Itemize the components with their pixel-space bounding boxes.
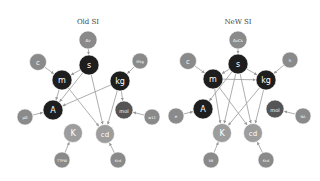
- node-m-new: m: [203, 69, 223, 89]
- node-c-old: c: [30, 54, 47, 71]
- node-cd-old: cd: [96, 125, 115, 144]
- svg-text:mol: mol: [119, 108, 128, 114]
- old-si-title: Old SI: [77, 18, 99, 26]
- node-dnu-old: Δν: [79, 31, 97, 49]
- svg-text:w12: w12: [148, 116, 155, 120]
- node-w12-old: w12: [144, 109, 160, 125]
- svg-text:c: c: [186, 58, 190, 66]
- node-c-new: c: [180, 53, 197, 70]
- edge-s-to-cd: [91, 75, 102, 125]
- node-K-new: K: [213, 124, 232, 143]
- edge-s-to-m: [222, 69, 229, 73]
- svg-text:K: K: [219, 129, 225, 138]
- node-m-old: m: [52, 70, 72, 90]
- edge-Kcd-to-cd: [109, 143, 114, 153]
- edge-NA-to-mol: [284, 111, 295, 114]
- edge-Ttpw-to-K: [65, 142, 69, 152]
- edge-c-to-m: [45, 67, 54, 74]
- edge-m-to-K: [215, 89, 221, 123]
- svg-text:c: c: [36, 59, 40, 67]
- node-NA-new: NA: [295, 108, 311, 124]
- edge-kg-to-A: [63, 85, 111, 106]
- node-cd-new: cd: [244, 124, 263, 143]
- edge-m-to-cd: [68, 88, 99, 126]
- node-kg-old: kg: [110, 71, 130, 91]
- node-kB-new: kB: [203, 152, 219, 168]
- edge-mu0-to-A: [33, 113, 43, 116]
- edge-s-to-K: [224, 74, 235, 124]
- edge-kB-to-K: [214, 142, 218, 152]
- node-mol-old: mol: [115, 101, 133, 119]
- node-Mkg-old: Mkg: [132, 53, 148, 69]
- edge-h-to-kg: [274, 65, 284, 73]
- node-Ttpw-old: TTPW: [54, 152, 70, 168]
- svg-text:m: m: [209, 75, 217, 84]
- svg-text:kg: kg: [115, 77, 125, 86]
- svg-text:NA: NA: [300, 115, 306, 119]
- node-s-new: s: [228, 54, 248, 74]
- svg-text:kg: kg: [261, 76, 271, 85]
- edge-Mkg-to-kg: [127, 67, 134, 74]
- svg-text:μ0: μ0: [22, 115, 28, 120]
- edge-s-to-cd: [240, 74, 251, 123]
- edge-m-to-A: [56, 90, 59, 100]
- svg-text:ΔνCs: ΔνCs: [233, 38, 243, 43]
- svg-text:h: h: [289, 58, 292, 63]
- new-si-title: NeW SI: [224, 18, 251, 26]
- node-Kcd-old: Kcd: [110, 152, 126, 168]
- svg-text:A: A: [200, 105, 206, 114]
- edge-c-to-m: [195, 66, 205, 73]
- svg-text:TTPW: TTPW: [56, 159, 67, 163]
- svg-text:Δν: Δν: [86, 38, 92, 43]
- edge-w12-to-mol: [133, 112, 144, 115]
- svg-text:m: m: [58, 76, 66, 85]
- edge-s-to-kg: [247, 69, 257, 75]
- svg-text:Kcd: Kcd: [263, 159, 269, 163]
- svg-text:K: K: [70, 129, 76, 138]
- node-s-old: s: [79, 55, 99, 75]
- svg-text:Kcd: Kcd: [115, 159, 121, 163]
- node-K-old: K: [64, 124, 83, 143]
- svg-text:cd: cd: [249, 130, 257, 138]
- edge-kg-to-mol: [121, 91, 122, 101]
- svg-text:s: s: [87, 61, 91, 70]
- node-mu0-old: μ0: [17, 109, 33, 125]
- edge-m-to-kg: [223, 79, 256, 80]
- node-dnu-new: ΔνCs: [229, 31, 247, 49]
- node-kg-new: kg: [256, 70, 276, 90]
- svg-text:mol: mol: [270, 107, 279, 113]
- node-A-new: A: [193, 99, 213, 119]
- svg-text:kB: kB: [209, 159, 214, 163]
- node-Kcd-new: Kcd: [258, 152, 274, 168]
- edge-s-to-m: [71, 70, 80, 75]
- node-h-new: h: [282, 52, 298, 68]
- edge-e-to-A: [184, 112, 193, 114]
- svg-text:Mkg: Mkg: [136, 60, 143, 64]
- svg-text:A: A: [50, 106, 56, 115]
- edge-Kcd-to-cd: [257, 142, 262, 153]
- edge-kg-to-cd: [255, 90, 263, 124]
- svg-text:cd: cd: [101, 131, 109, 139]
- svg-text:s: s: [236, 60, 240, 69]
- node-e-new: e: [168, 108, 184, 124]
- node-mol-new: mol: [266, 100, 284, 118]
- node-A-old: A: [43, 100, 63, 120]
- si-dependency-diagrams: Old SI NeW SI ΔνcsMkgmkgAμ0molw12KcdTTPW…: [0, 0, 320, 181]
